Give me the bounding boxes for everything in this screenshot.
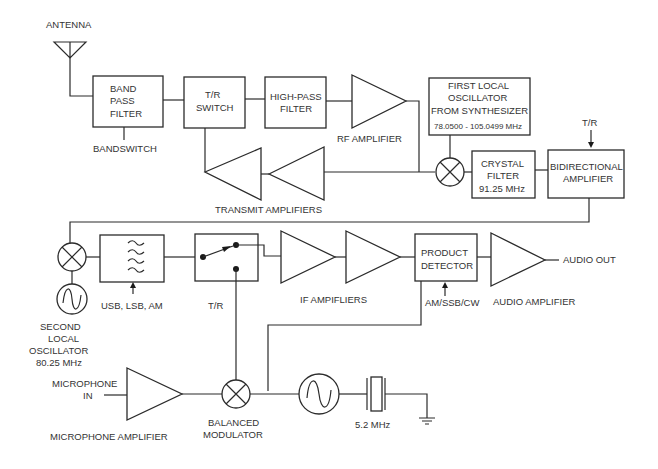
rf-amplifier: RF AMPLIFIER [337,75,406,144]
balanced-modulator-icon [222,380,250,408]
audio-out-label: AUDIO OUT [563,254,616,265]
carrier-oscillator-icon [299,374,339,414]
svg-text:78.0500 - 105.0499 MHz: 78.0500 - 105.0499 MHz [434,122,522,131]
second-mixer-icon [58,243,86,271]
tr-top-label: T/R [582,117,597,128]
high-pass-filter: HIGH-PASS FILTER [265,77,326,128]
if-amplifier-1 [281,231,335,283]
transmit-amplifier-1 [205,148,261,200]
first-local-oscillator: FIRST LOCAL OSCILLATOR FROM SYNTHESIZER … [429,78,530,135]
antenna-icon [54,42,86,58]
svg-text:BIDIRECTIONAL: BIDIRECTIONAL [550,161,623,172]
svg-text:T/R: T/R [205,89,220,100]
svg-text:HIGH-PASS: HIGH-PASS [270,91,322,102]
crystal-filter: CRYSTAL FILTER 91.25 MHz [472,151,535,198]
svg-text:BALANCED: BALANCED [208,417,259,428]
audio-amplifier-label: AUDIO AMPLIFIER [493,296,575,307]
svg-text:SWITCH: SWITCH [196,102,234,113]
svg-text:CRYSTAL: CRYSTAL [481,158,524,169]
arrow-up-icon [130,282,136,288]
wire-rf-mixer [406,101,419,172]
crystal-icon [367,377,385,411]
tr-switch: T/R SWITCH [184,77,245,128]
ground-icon [419,418,435,424]
second-local-oscillator-icon [57,284,87,314]
sideband-filter [100,235,164,282]
svg-text:IN: IN [83,390,93,401]
svg-text:RF AMPLIFIER: RF AMPLIFIER [337,133,402,144]
antenna: ANTENNA [46,19,92,58]
svg-text:PRODUCT: PRODUCT [421,247,468,258]
svg-text:FROM SYNTHESIZER: FROM SYNTHESIZER [431,105,528,116]
crystal-freq-label: 5.2 MHz [355,419,391,430]
bandswitch-label: BANDSWITCH [93,143,157,154]
svg-text:OSCILLATOR: OSCILLATOR [29,345,88,356]
wire-crystal-ground [385,394,427,418]
svg-text:SECOND: SECOND [40,321,81,332]
svg-text:FILTER: FILTER [280,103,312,114]
arrow-up-icon [442,282,448,288]
microphone-amplifier [127,368,182,420]
if-amplifier-2 [346,231,400,283]
svg-text:AMPLIFIER: AMPLIFIER [563,173,613,184]
svg-text:MODULATOR: MODULATOR [203,429,263,440]
svg-text:PASS: PASS [110,95,135,106]
svg-text:MICROPHONE: MICROPHONE [52,378,117,389]
mode-select-label: USB, LSB, AM [101,300,163,311]
svg-text:91.25 MHz: 91.25 MHz [479,183,525,194]
bidirectional-amplifier: BIDIRECTIONAL AMPLIFIER [548,150,624,198]
transmit-amplifiers-label: TRANSMIT AMPLIFIERS [215,204,322,215]
if-amplifiers-label: IF AMPIFLIERS [300,294,367,305]
svg-text:80.25 MHz: 80.25 MHz [36,357,82,368]
transmit-amplifier-2 [269,147,324,200]
tr-relay [195,234,258,281]
svg-text:OSCILLATOR: OSCILLATOR [448,92,507,103]
radio-block-diagram: ANTENNA BAND PASS FILTER BANDSWITCH T/R … [0,0,658,469]
tr-mid-label: T/R [208,300,223,311]
svg-text:BAND: BAND [110,83,137,94]
first-mixer-icon [436,158,464,186]
band-pass-filter: BAND PASS FILTER [93,76,163,127]
svg-text:FIRST LOCAL: FIRST LOCAL [448,80,509,91]
arrow-down-icon [588,142,594,148]
svg-text:LOCAL: LOCAL [48,333,79,344]
microphone-amplifier-label: MICROPHONE AMPLIFIER [50,431,168,442]
antenna-label: ANTENNA [46,19,92,30]
svg-text:FILTER: FILTER [110,108,142,119]
wire-antenna-bpf [70,58,93,96]
svg-text:FILTER: FILTER [487,170,519,181]
svg-text:DETECTOR: DETECTOR [421,260,473,271]
detector-mode-label: AM/SSB/CW [425,297,479,308]
audio-amplifier [491,233,545,286]
product-detector: PRODUCT DETECTOR [415,234,477,281]
